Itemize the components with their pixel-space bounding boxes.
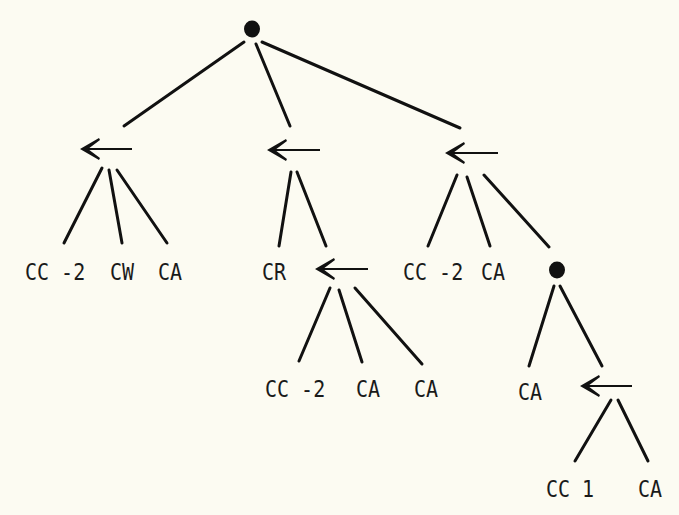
- leaf-label: CC -2: [265, 377, 325, 400]
- tree-edge: [299, 288, 330, 361]
- tree-edge: [262, 42, 460, 128]
- leaf-label: CR: [262, 260, 286, 283]
- tree-edge: [467, 177, 490, 246]
- tree-edge: [428, 175, 457, 246]
- leaf-label: CA: [638, 477, 662, 500]
- tree-edge: [484, 175, 549, 247]
- tree-edge: [109, 170, 122, 243]
- leaf-label: CC -2: [403, 260, 463, 283]
- left-arrow-node-icon: [315, 258, 368, 280]
- left-arrow-node-icon: [267, 139, 320, 161]
- leaf-label: CA: [356, 377, 380, 400]
- tree-edge: [297, 172, 326, 246]
- left-arrow-node-icon: [80, 138, 132, 160]
- leaf-label: CC -2: [25, 260, 85, 283]
- tree-edge: [618, 400, 648, 461]
- tree-edge: [529, 286, 554, 366]
- tree-edge: [575, 400, 611, 461]
- tree-edge: [64, 168, 102, 243]
- left-arrow-node-icon: [445, 142, 498, 164]
- tree-edge: [256, 44, 290, 126]
- leaf-label: CC 1: [546, 477, 594, 500]
- tree-edge: [124, 42, 244, 126]
- tree-edge: [117, 170, 167, 243]
- tree-edge: [279, 172, 291, 246]
- left-arrow-node-icon: [580, 375, 632, 397]
- tree-edge: [560, 286, 602, 366]
- leaf-label: CW: [110, 260, 134, 283]
- leaf-label: CA: [481, 260, 505, 283]
- leaf-label: CA: [158, 260, 182, 283]
- leaf-label: CA: [518, 380, 542, 403]
- dot-node-icon: [549, 262, 565, 279]
- tree-diagram: [0, 0, 679, 515]
- tree-edge: [339, 290, 362, 362]
- leaf-label: CA: [414, 377, 438, 400]
- tree-edge: [355, 288, 422, 364]
- dot-node-icon: [244, 21, 260, 38]
